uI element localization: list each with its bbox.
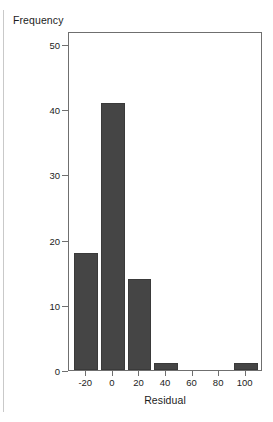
histogram-bar (234, 363, 258, 370)
y-axis-tick-label: 10 (20, 300, 60, 311)
x-axis-tick (85, 371, 86, 376)
y-axis-tick-label-wrap: 0 (16, 371, 60, 372)
y-axis-tick-label-wrap: 30 (16, 175, 60, 176)
x-axis-tick (165, 371, 166, 376)
y-axis-tick-label: 20 (20, 235, 60, 246)
y-axis-tick-label: 50 (20, 40, 60, 51)
x-axis-label: Residual (68, 394, 262, 406)
histogram-figure: Frequency 01020304050 -20020406080100 Re… (0, 0, 273, 422)
y-axis-tick-label: 40 (20, 105, 60, 116)
y-axis-tick-label-wrap: 50 (16, 45, 60, 46)
histogram-bar (74, 253, 98, 370)
x-axis-tick (112, 371, 113, 376)
x-axis-tick (138, 371, 139, 376)
histogram-bar (101, 103, 125, 370)
y-axis-tick (62, 371, 68, 372)
x-axis-tick (218, 371, 219, 376)
y-axis-label: Frequency (13, 14, 64, 26)
y-axis-tick-label: 0 (20, 366, 60, 377)
page-edge-rule (3, 10, 4, 412)
bar-series (69, 33, 261, 370)
y-axis-tick-label-wrap: 10 (16, 306, 60, 307)
x-axis-tick (192, 371, 193, 376)
y-axis-tick-label-wrap: 40 (16, 110, 60, 111)
y-axis-tick-label-wrap: 20 (16, 241, 60, 242)
x-axis-tick (245, 371, 246, 376)
x-axis-tick-label: 100 (225, 377, 265, 388)
plot-area (68, 32, 262, 371)
histogram-bar (154, 363, 178, 370)
y-axis-tick-label: 30 (20, 170, 60, 181)
histogram-bar (128, 279, 152, 370)
